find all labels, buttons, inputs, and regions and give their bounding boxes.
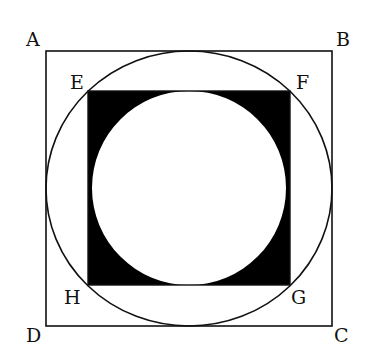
geometry-diagram: A B C D E F G H — [0, 0, 369, 362]
label-c: C — [334, 324, 349, 346]
label-f: F — [296, 71, 309, 93]
shaded-region — [88, 91, 290, 285]
label-e: E — [70, 71, 84, 93]
label-h: H — [64, 286, 81, 308]
label-d: D — [26, 324, 41, 346]
label-g: G — [291, 286, 306, 308]
label-b: B — [336, 28, 350, 50]
label-a: A — [25, 28, 40, 50]
